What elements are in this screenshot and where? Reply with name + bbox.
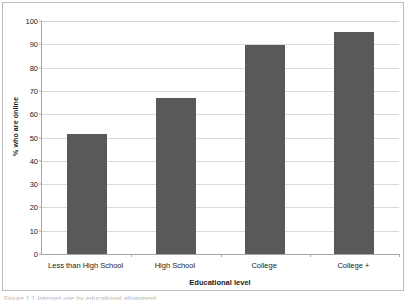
bar <box>156 98 196 254</box>
plot-area: 0102030405060708090100 <box>41 21 399 255</box>
y-axis-tick-label: 50 <box>30 133 38 142</box>
y-axis-tick-label: 30 <box>30 180 38 189</box>
y-axis-tick-label: 70 <box>30 86 38 95</box>
y-axis-tick-label: 100 <box>25 17 38 26</box>
y-axis-tick-label: 80 <box>30 63 38 72</box>
bar <box>245 45 285 254</box>
x-axis-tick-mark <box>399 254 400 257</box>
x-axis-tick-label: High School <box>155 261 195 270</box>
y-axis-tick-label: 60 <box>30 110 38 119</box>
bar-slot <box>310 21 399 254</box>
x-axis-tick-labels: Less than High SchoolHigh SchoolCollegeC… <box>41 261 399 275</box>
x-axis-tick-label: Less than High School <box>48 261 123 270</box>
bar <box>67 134 107 254</box>
x-axis-tick-mark <box>221 254 222 257</box>
y-axis-tick-label: 20 <box>30 203 38 212</box>
figure-caption-sliver: Figure 1.1 Internet use by educational a… <box>4 294 364 300</box>
y-axis-tick-label: 90 <box>30 40 38 49</box>
x-axis-tick-mark <box>131 254 132 257</box>
y-axis-tick-label: 10 <box>30 226 38 235</box>
bar-slot <box>131 21 220 254</box>
x-axis-title: Educational level <box>41 278 399 287</box>
y-axis-tick-label: 40 <box>30 156 38 165</box>
y-axis-title: % who are online <box>12 77 19 177</box>
bar <box>334 32 374 254</box>
x-axis-tick-label: College + <box>337 261 369 270</box>
figure-container: % who are online 0102030405060708090100 … <box>0 0 408 300</box>
y-axis-tick-label: 0 <box>34 250 38 259</box>
x-axis-tick-label: College <box>251 261 276 270</box>
bar-slot <box>221 21 310 254</box>
bars-layer <box>42 21 399 254</box>
bar-slot <box>42 21 131 254</box>
chart-frame: % who are online 0102030405060708090100 … <box>2 2 404 291</box>
x-axis-tick-mark <box>310 254 311 257</box>
